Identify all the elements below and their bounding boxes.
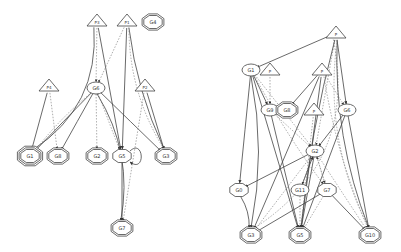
node-label: G3 xyxy=(247,232,254,238)
node-g1: G1 xyxy=(17,146,42,166)
node-label: G7 xyxy=(118,225,125,231)
node-label: G4 xyxy=(149,19,156,25)
node-g8: G8 xyxy=(47,148,69,164)
node-g4: G4 xyxy=(142,14,164,30)
node-p4: P4 xyxy=(39,79,59,91)
left-graph-edges xyxy=(32,27,164,221)
node-label: G5 xyxy=(296,232,303,238)
node-g3r: G3 xyxy=(240,227,262,243)
edge-G6-G8 xyxy=(61,93,93,150)
edge-G6-G2 xyxy=(96,94,97,149)
edge-G6-G3 xyxy=(100,92,161,151)
node-g7r: G7 xyxy=(318,184,336,197)
edge-G6r-G5r xyxy=(303,116,345,229)
node-g0: G0 xyxy=(230,184,248,197)
edge-P1-G5 xyxy=(122,28,126,149)
right-graph: PG1PPG9G8PG6G2G0G11G7G3G5G10 xyxy=(230,26,381,243)
node-label: P4 xyxy=(47,85,52,90)
node-g11: G11 xyxy=(291,184,309,196)
node-label: G0 xyxy=(235,187,242,193)
graph-canvas: P3P1G4P4G6P2G1G8G2G5G3G7 PG1PPG9G8PG6G2G… xyxy=(0,0,401,252)
left-graph-nodes: P3P1G4P4G6P2G1G8G2G5G3G7 xyxy=(17,14,177,236)
edge-P0-G10 xyxy=(337,40,369,228)
edge-P2-G3 xyxy=(147,93,164,150)
node-label: G6 xyxy=(92,85,99,91)
node-g2: G2 xyxy=(86,148,108,164)
node-g7: G7 xyxy=(111,220,133,236)
node-label: G8 xyxy=(283,107,290,113)
edge-P3-G6 xyxy=(96,28,97,82)
edge-P4-G8 xyxy=(50,93,57,149)
edge-P1-G6 xyxy=(99,27,125,82)
node-label: G2 xyxy=(311,148,318,154)
node-label: P3 xyxy=(95,20,100,25)
node-g1r: G1 xyxy=(242,64,260,76)
edge-G9-G2r xyxy=(274,114,310,147)
left-graph: P3P1G4P4G6P2G1G8G2G5G3G7 xyxy=(17,14,177,236)
node-g3: G3 xyxy=(155,148,177,164)
node-label: G9 xyxy=(266,107,273,113)
node-label: G6 xyxy=(343,107,350,113)
node-p0: P xyxy=(326,26,346,38)
node-label: P2 xyxy=(143,85,148,90)
node-g2r: G2 xyxy=(306,145,324,157)
node-g5r: G5 xyxy=(289,227,311,243)
edge-G6-G1 xyxy=(35,92,92,151)
edge-G5-G5 xyxy=(130,148,141,164)
node-p6: P xyxy=(312,63,332,75)
node-label: G11 xyxy=(295,187,305,193)
edge-G1r-G9 xyxy=(254,75,268,104)
edge-G0-G3r xyxy=(241,197,249,228)
node-label: G8 xyxy=(54,153,61,159)
node-label: G5 xyxy=(118,153,125,159)
edge-G7r-G10 xyxy=(332,195,365,230)
node-p2: P2 xyxy=(135,79,155,91)
edge-P0-G1r xyxy=(257,36,330,68)
node-label: G1 xyxy=(26,153,33,159)
node-label: G7 xyxy=(323,187,330,193)
right-graph-edges xyxy=(240,36,369,232)
node-p1: P1 xyxy=(117,14,137,26)
node-label: G10 xyxy=(365,232,375,238)
right-graph-nodes: PG1PPG9G8PG6G2G0G11G7G3G5G10 xyxy=(230,26,381,243)
node-g6r: G6 xyxy=(338,104,356,116)
edge-G1r-G3r xyxy=(251,76,259,228)
node-g10: G10 xyxy=(359,227,381,243)
node-label: G2 xyxy=(93,153,100,159)
edge-G1r-G0 xyxy=(240,76,251,183)
edge-G1r-G5r xyxy=(253,76,298,229)
node-g8r: G8 xyxy=(276,102,298,118)
node-p3: P3 xyxy=(87,14,107,26)
node-label: P1 xyxy=(125,20,130,25)
node-label: G1 xyxy=(247,67,254,73)
node-g5: G5 xyxy=(113,150,131,163)
edge-G7r-G5r xyxy=(304,196,324,229)
node-g6: G6 xyxy=(87,82,105,94)
node-label: G3 xyxy=(162,153,169,159)
edge-G6-G5 xyxy=(98,94,119,150)
